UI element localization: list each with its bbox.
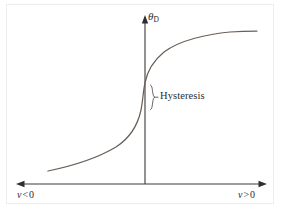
hysteresis-figure: θD Hysteresis v<0 v>0	[0, 0, 286, 213]
plot-canvas	[0, 0, 286, 213]
hysteresis-brace-icon	[151, 85, 155, 110]
x-axis-arrow-right-icon	[259, 181, 268, 187]
x-axis-arrow-left-icon	[16, 181, 25, 187]
y-axis-label-subscript: D	[153, 15, 159, 24]
x-axis-label-negative-value: 0	[29, 189, 34, 200]
hysteresis-curve	[48, 31, 257, 171]
hysteresis-label: Hysteresis	[160, 91, 205, 102]
x-axis-label-positive-value: 0	[250, 189, 255, 200]
y-axis-label: θD	[148, 11, 159, 23]
x-axis-label-negative-operator: <	[21, 189, 29, 200]
x-axis-label-negative: v<0	[17, 190, 34, 200]
x-axis-label-positive-operator: >	[242, 189, 250, 200]
x-axis-label-positive: v>0	[238, 190, 255, 200]
